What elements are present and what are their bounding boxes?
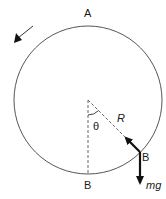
label-angle-theta: θ — [93, 120, 99, 132]
label-reaction-force: R — [117, 112, 125, 124]
label-particle-point: B — [142, 151, 149, 163]
label-bottom-point: B — [84, 179, 91, 191]
circular-motion-diagram: A B B θ R mg — [0, 0, 166, 199]
label-weight-force: mg — [146, 179, 162, 191]
angle-arc — [88, 111, 99, 115]
rotation-direction-arrow-icon — [14, 26, 33, 43]
reaction-force-arrow — [126, 138, 140, 152]
label-top-point: A — [84, 7, 92, 19]
